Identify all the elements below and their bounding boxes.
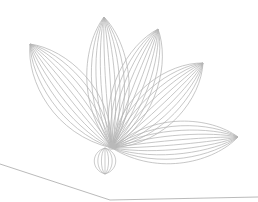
lotus-center [108,142,116,150]
lotus-petals [30,17,238,164]
petal-left [30,44,112,148]
lotus-illustration [0,0,258,202]
lotus-bud [94,148,115,174]
ground-line [0,164,258,200]
